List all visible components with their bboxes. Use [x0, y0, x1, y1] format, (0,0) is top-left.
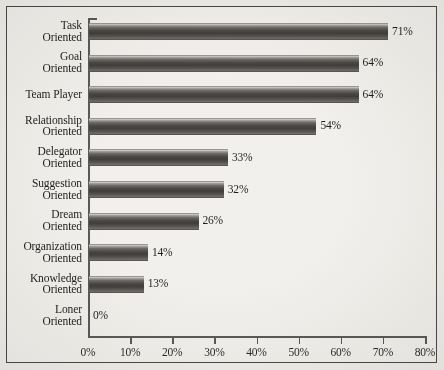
- x-axis-tick-label: 30%: [204, 346, 224, 358]
- bar: [89, 118, 316, 135]
- bar-value-label: 32%: [228, 183, 248, 195]
- x-axis-tick-label: 50%: [288, 346, 308, 358]
- category-label: Relationship Oriented: [0, 115, 82, 139]
- bar: [89, 181, 224, 198]
- category-label: Suggestion Oriented: [0, 178, 82, 202]
- bar-row: Organization Oriented14%: [0, 244, 444, 262]
- bar-value-label: 14%: [152, 246, 172, 258]
- bar: [89, 86, 359, 103]
- bar-value-label: 64%: [363, 88, 383, 100]
- category-label: Task Oriented: [0, 20, 82, 44]
- y-axis-top-cap-tick: [88, 18, 97, 20]
- x-axis-tick-label: 60%: [331, 346, 351, 358]
- bar-row: Team Player64%: [0, 86, 444, 104]
- x-axis-tick-label: 40%: [246, 346, 266, 358]
- bar: [89, 213, 199, 230]
- bar-value-label: 54%: [320, 119, 340, 131]
- bar: [89, 149, 228, 166]
- bar-row: Goal Oriented64%: [0, 55, 444, 73]
- x-axis-tick-label: 20%: [162, 346, 182, 358]
- bar-value-label: 64%: [363, 56, 383, 68]
- x-axis-tick-label: 10%: [120, 346, 140, 358]
- bar-value-label: 0%: [93, 309, 108, 321]
- bar-value-label: 26%: [203, 214, 223, 226]
- bar-row: Relationship Oriented54%: [0, 118, 444, 136]
- x-axis-tick-label: 0%: [81, 346, 96, 358]
- bar-value-label: 13%: [148, 277, 168, 289]
- bar: [89, 55, 359, 72]
- bar-value-label: 33%: [232, 151, 252, 163]
- x-axis-tick-label: 70%: [373, 346, 393, 358]
- bar: [89, 276, 144, 293]
- x-axis-tick: [299, 336, 301, 344]
- x-axis-tick: [130, 336, 132, 344]
- category-label: Loner Oriented: [0, 304, 82, 328]
- category-label: Knowledge Oriented: [0, 273, 82, 297]
- bar: [89, 244, 148, 261]
- category-label: Delegator Oriented: [0, 146, 82, 170]
- bar-row: Task Oriented71%: [0, 23, 444, 41]
- bar-row: Knowledge Oriented13%: [0, 276, 444, 294]
- x-axis-tick: [257, 336, 259, 344]
- x-axis-tick: [383, 336, 385, 344]
- x-axis-tick: [341, 336, 343, 344]
- bar: [89, 23, 388, 40]
- bar-row: Loner Oriented0%: [0, 307, 444, 325]
- bar-value-label: 71%: [392, 25, 412, 37]
- bar-row: Delegator Oriented33%: [0, 149, 444, 167]
- category-label: Goal Oriented: [0, 51, 82, 75]
- category-label: Dream Oriented: [0, 209, 82, 233]
- x-axis-tick-label: 80%: [415, 346, 435, 358]
- x-axis-tick: [172, 336, 174, 344]
- bar-row: Suggestion Oriented32%: [0, 181, 444, 199]
- bar-row: Dream Oriented26%: [0, 213, 444, 231]
- x-axis-tick: [214, 336, 216, 344]
- category-label: Organization Oriented: [0, 241, 82, 265]
- bar-chart-figure: Task Oriented71%Goal Oriented64%Team Pla…: [0, 0, 444, 370]
- category-label: Team Player: [0, 89, 82, 101]
- x-axis-tick: [425, 336, 427, 344]
